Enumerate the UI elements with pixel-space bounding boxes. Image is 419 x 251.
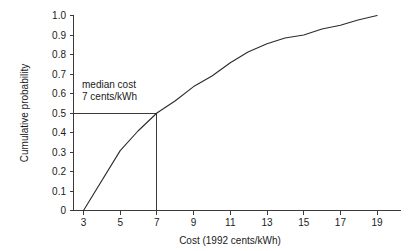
y-tick-label-0.7: 0.7 xyxy=(52,69,66,80)
y-tick-label-0.9: 0.9 xyxy=(52,30,66,41)
x-tick-label-15: 15 xyxy=(298,217,310,228)
chart-canvas: 1.0 0.9 0.8 0.7 0.6 0.5 0.4 0.3 0.2 0.1 … xyxy=(0,0,419,251)
y-tick-label-0.6: 0.6 xyxy=(52,88,66,99)
y-tick-label-0.4: 0.4 xyxy=(52,127,66,138)
y-axis-title: Cumulative probability xyxy=(19,64,30,162)
x-tick-label-19: 19 xyxy=(372,217,384,228)
y-axis-ticks xyxy=(70,16,74,211)
y-tick-label-0.1: 0.1 xyxy=(52,186,66,197)
y-tick-label-0.5: 0.5 xyxy=(52,108,66,119)
x-axis-ticks xyxy=(84,211,378,215)
y-tick-label-1.0: 1.0 xyxy=(52,10,66,21)
median-annotation-line-1: median cost xyxy=(82,79,136,90)
x-tick-label-7: 7 xyxy=(154,217,160,228)
x-axis-title: Cost (1992 cents/kWh) xyxy=(179,235,281,246)
x-tick-label-17: 17 xyxy=(335,217,347,228)
median-annotation-line-2: 7 cents/kWh xyxy=(82,91,137,102)
y-tick-label-0.8: 0.8 xyxy=(52,49,66,60)
x-tick-label-11: 11 xyxy=(225,217,236,228)
x-tick-label-9: 9 xyxy=(191,217,197,228)
x-tick-label-13: 13 xyxy=(261,217,273,228)
x-tick-label-5: 5 xyxy=(117,217,123,228)
cumulative-probability-chart: 1.0 0.9 0.8 0.7 0.6 0.5 0.4 0.3 0.2 0.1 … xyxy=(0,0,419,251)
y-tick-label-0.3: 0.3 xyxy=(52,147,66,158)
y-tick-label-0: 0 xyxy=(60,205,66,216)
x-tick-label-3: 3 xyxy=(81,217,87,228)
y-tick-label-0.2: 0.2 xyxy=(52,166,66,177)
